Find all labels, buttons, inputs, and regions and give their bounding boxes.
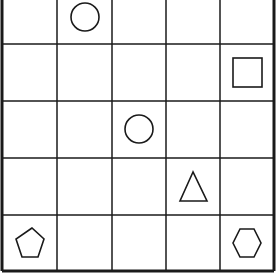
circle-icon [125, 115, 153, 143]
pentagon-icon [16, 228, 44, 257]
hexagon-icon [233, 229, 261, 257]
circle-icon [71, 3, 99, 31]
shape-grid [0, 0, 278, 275]
triangle-icon [180, 172, 207, 201]
square-icon [233, 58, 262, 87]
